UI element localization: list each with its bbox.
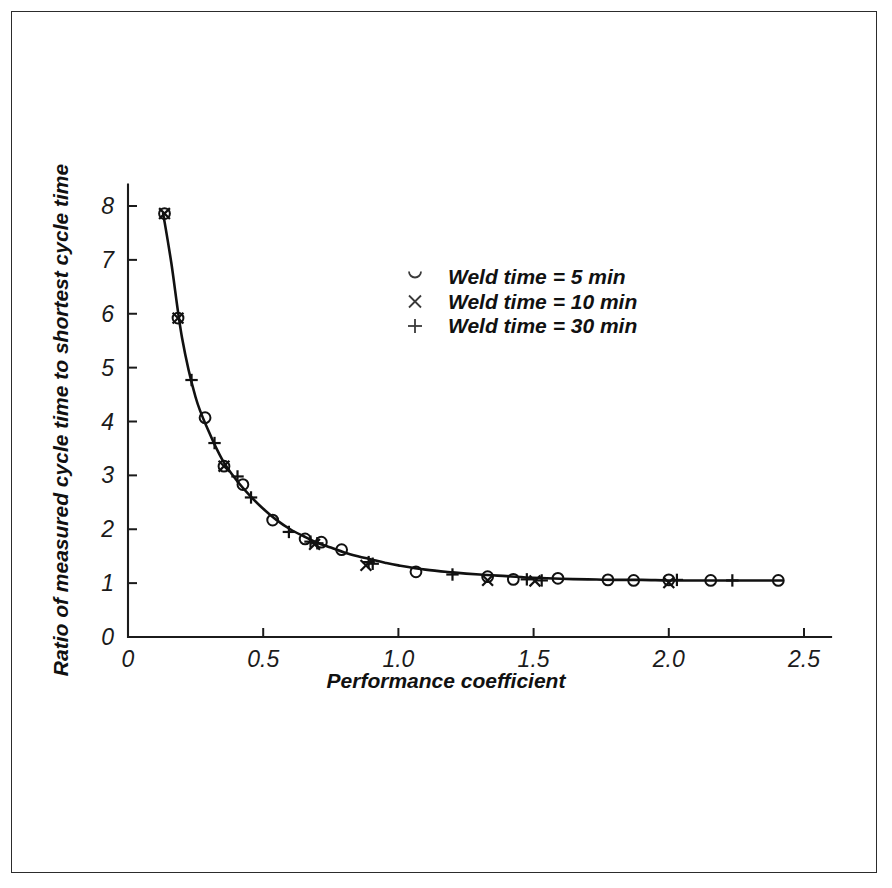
- y-tick-label: 8: [101, 193, 114, 219]
- legend-label: Weld time = 5 min: [448, 265, 626, 288]
- x-tick-label: 0.5: [247, 646, 279, 672]
- x-tick-label: 2.0: [652, 646, 685, 672]
- legend-cross-icon: [409, 296, 421, 308]
- data-point-plus: [231, 470, 243, 482]
- legend-entry: Weld time = 10 min: [409, 290, 637, 313]
- y-tick-label: 7: [101, 247, 115, 273]
- y-tick-label: 5: [101, 355, 114, 381]
- y-tick-label: 1: [101, 570, 114, 596]
- legend-label: Weld time = 10 min: [448, 290, 637, 313]
- legend-label: Weld time = 30 min: [448, 314, 637, 337]
- legend: Weld time = 5 minWeld time = 10 minWeld …: [408, 265, 637, 337]
- figure-root: 00.51.01.52.02.5 012345678 Weld time = 5…: [0, 0, 892, 888]
- data-point-plus: [185, 374, 197, 386]
- legend-entry: Weld time = 30 min: [408, 314, 637, 337]
- axes-group: [128, 184, 831, 637]
- data-point-plus: [208, 437, 220, 449]
- x-axis-ticks: [263, 628, 804, 637]
- scatter-plot: 00.51.01.52.02.5 012345678 Weld time = 5…: [0, 0, 892, 888]
- y-tick-label: 4: [101, 409, 114, 435]
- y-axis-title: Ratio of measured cycle time to shortest…: [49, 164, 72, 677]
- data-point-plus: [446, 568, 458, 580]
- y-axis-ticks: [128, 206, 137, 583]
- legend-entry: Weld time = 5 min: [409, 265, 626, 288]
- y-tick-label: 0: [101, 624, 114, 650]
- y-tick-label: 3: [101, 462, 114, 488]
- series-plus: [185, 374, 738, 587]
- x-tick-label: 2.5: [787, 646, 820, 672]
- data-point-plus: [283, 526, 295, 538]
- x-axis-title: Performance coefficient: [327, 669, 567, 692]
- legend-plus-icon: [408, 319, 422, 333]
- y-axis-tick-labels: 012345678: [100, 193, 115, 650]
- y-tick-label: 2: [100, 516, 114, 542]
- x-tick-label: 0: [122, 646, 135, 672]
- data-point-plus: [726, 574, 738, 586]
- legend-circle-icon: [409, 272, 421, 278]
- y-tick-label: 6: [101, 301, 114, 327]
